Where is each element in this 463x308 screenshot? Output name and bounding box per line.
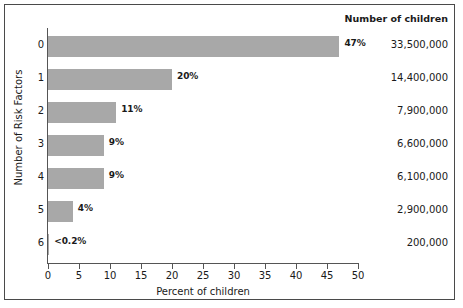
x-axis-tick [79, 264, 80, 269]
bar [48, 168, 104, 189]
y-axis-ticklabels: 0123456 [12, 30, 44, 262]
value-cell: 14,400,000 [360, 72, 448, 83]
bar [48, 201, 73, 222]
x-axis-ticklabel: 20 [157, 270, 187, 281]
bar-value-label: <0.2% [54, 236, 86, 246]
y-axis-ticklabel: 2 [14, 105, 44, 116]
x-axis-ticklabel: 35 [250, 270, 280, 281]
value-column: 33,500,00014,400,0007,900,0006,600,0006,… [360, 30, 448, 262]
bar-value-label: 9% [109, 137, 124, 147]
value-cell: 2,900,000 [360, 204, 448, 215]
y-axis-ticklabel: 4 [14, 171, 44, 182]
x-axis-tick [110, 264, 111, 269]
x-axis-tick [203, 264, 204, 269]
x-axis-tick [358, 264, 359, 269]
x-axis-ticklabel: 25 [188, 270, 218, 281]
bar-value-label: 9% [109, 170, 124, 180]
value-cell: 6,600,000 [360, 138, 448, 149]
value-cell: 200,000 [360, 237, 448, 248]
x-axis-ticklabel: 45 [312, 270, 342, 281]
bar-value-label: 20% [177, 71, 198, 81]
x-axis-tick [48, 264, 49, 269]
x-axis-ticklabel: 50 [343, 270, 373, 281]
bar-value-label: 11% [121, 104, 142, 114]
value-cell: 7,900,000 [360, 105, 448, 116]
chart-figure: Number of Risk Factors 0123456 47%20%11%… [0, 0, 463, 308]
x-axis-ticklabel: 40 [281, 270, 311, 281]
x-axis-ticklabels: 05101520253035404550 [48, 270, 358, 284]
value-cell: 33,500,000 [360, 39, 448, 50]
y-axis-ticklabel: 0 [14, 39, 44, 50]
x-axis-tick [265, 264, 266, 269]
bar-row: 4% [48, 195, 358, 228]
x-axis-tick [141, 264, 142, 269]
bar-row: 47% [48, 30, 358, 63]
value-cell: 6,100,000 [360, 171, 448, 182]
x-axis-tick [172, 264, 173, 269]
x-axis-tick [327, 264, 328, 269]
x-axis-ticklabel: 30 [219, 270, 249, 281]
bar-row: 9% [48, 129, 358, 162]
x-axis-ticklabel: 0 [33, 270, 63, 281]
x-axis-tick [234, 264, 235, 269]
bar-row: 9% [48, 162, 358, 195]
bar [48, 69, 172, 90]
bar [48, 36, 339, 57]
bar-row: 11% [48, 96, 358, 129]
bar-value-label: 4% [78, 203, 93, 213]
x-axis-title: Percent of children [48, 286, 358, 297]
value-column-header: Number of children [330, 13, 448, 24]
y-axis-ticklabel: 6 [14, 237, 44, 248]
x-axis-tick [296, 264, 297, 269]
bar-row: 20% [48, 63, 358, 96]
y-axis-ticklabel: 5 [14, 204, 44, 215]
y-axis-ticklabel: 3 [14, 138, 44, 149]
bar [48, 135, 104, 156]
plot-area: 47%20%11%9%9%4%<0.2% [48, 30, 358, 262]
bar [48, 234, 49, 255]
x-axis-ticklabel: 10 [95, 270, 125, 281]
y-axis-ticklabel: 1 [14, 72, 44, 83]
x-axis-ticklabel: 5 [64, 270, 94, 281]
x-axis-ticklabel: 15 [126, 270, 156, 281]
bar [48, 102, 116, 123]
bar-row: <0.2% [48, 228, 358, 261]
